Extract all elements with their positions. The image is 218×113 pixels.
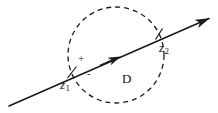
point-label-z2-subscript: 2	[164, 46, 169, 56]
plus-side-label: +	[78, 53, 84, 64]
minus-side-label: -	[87, 68, 91, 79]
direction-arrow-marker	[100, 59, 116, 66]
figure-canvas	[0, 0, 218, 113]
complex-plane-contour-figure: z1 z2 D + -	[0, 0, 218, 113]
point-label-z1-subscript: 1	[65, 83, 70, 93]
region-label-d: D	[122, 72, 131, 85]
point-label-z1: z1	[60, 78, 70, 93]
point-label-z2: z2	[159, 41, 169, 56]
